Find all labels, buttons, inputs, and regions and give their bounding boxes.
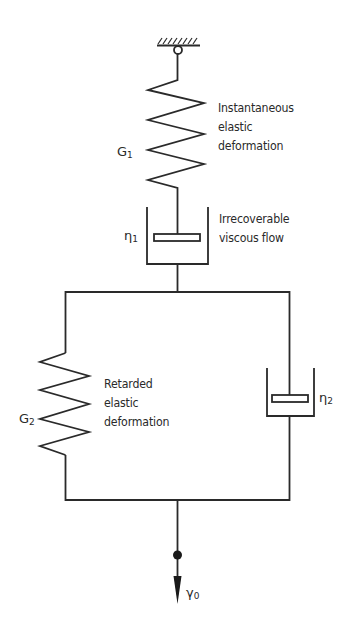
spring-2-icon [40,353,89,455]
spring-2-description: Retarded elastic deformation [104,374,169,431]
dashpot-2-symbol: η2 [319,390,333,406]
burgers-model-diagram: G1 Instantaneous elastic deformation η1 … [0,0,353,627]
diagram-drawing [0,0,353,627]
dashpot-2-icon [267,368,314,416]
dashpot-1-description: Irrecoverable viscous flow [219,209,289,247]
dashpot-1-symbol: η1 [124,228,138,244]
fixed-support-icon [157,38,200,54]
load-arrow-icon [173,500,182,604]
spring-1-description: Instantaneous elastic deformation [218,98,294,155]
spring-2-symbol: G2 [19,411,35,427]
parallel-frame [66,292,290,500]
spring-1-symbol: G1 [117,144,133,160]
spring-1-icon [148,54,204,215]
dashpot-1-icon [147,207,208,292]
strain-symbol: γ0 [186,585,199,601]
